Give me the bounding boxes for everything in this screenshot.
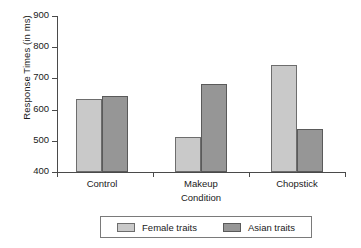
x-axis-line: [57, 172, 345, 173]
bar-control-female-traits: [76, 99, 102, 172]
x-axis-category-label-control: Control: [57, 178, 147, 189]
y-axis-tick: 800: [52, 47, 57, 48]
bar-control-asian-traits: [102, 96, 128, 172]
y-axis-tick-label: 700: [33, 71, 49, 82]
y-axis-line: [57, 16, 58, 172]
x-axis-title: Condition: [57, 192, 345, 203]
y-axis-tick-label: 800: [33, 40, 49, 51]
bar-chopstick-asian-traits: [297, 129, 323, 172]
y-axis-title: Response Times (in ms): [21, 0, 32, 138]
legend-swatch-female: [117, 223, 135, 232]
bar-makeup-female-traits: [175, 137, 201, 172]
x-axis-tick: [153, 172, 154, 177]
legend-label: Female traits: [142, 222, 197, 233]
y-axis-tick-label: 900: [33, 9, 49, 20]
cropped-caption-strip: [0, 0, 361, 5]
legend: Female traitsAsian traits: [100, 216, 312, 238]
legend-entry-female-traits: Female traits: [117, 222, 197, 233]
y-axis-tick-label: 400: [33, 165, 49, 176]
y-axis-tick-label: 500: [33, 134, 49, 145]
legend-label: Asian traits: [248, 222, 295, 233]
y-axis-tick: 700: [52, 78, 57, 79]
x-axis-category-label-chopstick: Chopstick: [252, 178, 342, 189]
legend-swatch-asian: [223, 223, 241, 232]
plot-area: 400500600700800900 ControlMakeupChopstic…: [57, 16, 345, 172]
x-axis-tick: [249, 172, 250, 177]
y-axis-tick: 900: [52, 16, 57, 17]
y-axis-tick: 600: [52, 110, 57, 111]
y-axis-tick-label: 600: [33, 103, 49, 114]
bar-chopstick-female-traits: [271, 65, 297, 172]
bar-chart-figure: Response Times (in ms) 40050060070080090…: [0, 0, 361, 248]
x-axis-tick: [57, 172, 58, 177]
x-axis-tick: [345, 172, 346, 177]
x-axis-category-label-makeup: Makeup: [156, 178, 246, 189]
bar-makeup-asian-traits: [201, 84, 227, 172]
legend-entry-asian-traits: Asian traits: [223, 222, 295, 233]
y-axis-tick: 500: [52, 141, 57, 142]
